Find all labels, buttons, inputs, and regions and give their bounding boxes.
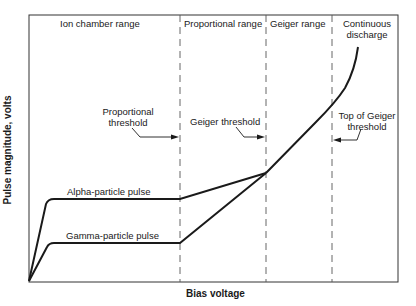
arrow-right-icon [257, 135, 265, 140]
threshold-label-line2: threshold [90, 117, 166, 128]
leader-line [236, 127, 258, 137]
arrow-left-icon [333, 138, 341, 143]
y-axis-label: Pulse magnitude, volts [2, 96, 13, 205]
diagram-canvas [0, 0, 416, 306]
region-label-ion-chamber: Ion chamber range [60, 18, 140, 29]
plot-frame [29, 15, 398, 282]
region-label-line2: discharge [336, 29, 398, 40]
leader-line [132, 128, 172, 137]
threshold-label-line2: threshold [333, 121, 401, 132]
threshold-label-proportional: Proportional threshold [90, 106, 166, 128]
threshold-label-top-of-geiger: Top of Geiger threshold [333, 110, 401, 132]
arrow-right-icon [171, 135, 179, 140]
curve-label-gamma: Gamma-particle pulse [66, 230, 159, 241]
threshold-label-line1: Top of Geiger [333, 110, 401, 121]
threshold-label-line1: Proportional [90, 106, 166, 117]
region-label-continuous-discharge: Continuous discharge [336, 18, 398, 40]
curve-label-alpha: Alpha-particle pulse [67, 186, 150, 197]
region-label-geiger: Geiger range [270, 18, 325, 29]
region-label-proportional: Proportional range [184, 18, 262, 29]
region-label-line1: Continuous [336, 18, 398, 29]
threshold-label-geiger: Geiger threshold [190, 116, 260, 127]
x-axis-label: Bias voltage [186, 288, 245, 299]
